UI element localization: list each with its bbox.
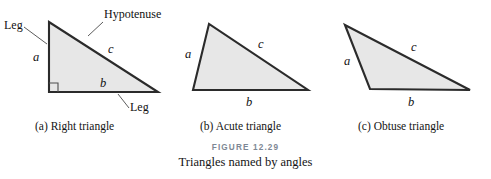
panel-caption-right-triangle: (a) Right triangle xyxy=(35,120,114,132)
triangles-diagram xyxy=(0,0,491,135)
leg-upper-left-callout-label: Leg xyxy=(4,19,23,31)
acute-triangle-shape xyxy=(193,24,308,90)
leg-lower-leader-line xyxy=(118,94,129,108)
side-label-c-obtuse: c xyxy=(411,41,417,54)
leg-lower-right-callout-label: Leg xyxy=(130,101,149,113)
figure-number: Figure 12.29 xyxy=(0,143,491,153)
side-label-b-right: b xyxy=(100,77,106,90)
panel-caption-acute-triangle: (b) Acute triangle xyxy=(200,120,281,132)
side-label-c-acute: c xyxy=(258,38,264,51)
figure-caption-block: Figure 12.29 Triangles named by angles xyxy=(0,143,491,171)
panel-caption-obtuse-triangle: (c) Obtuse triangle xyxy=(358,120,444,132)
side-label-a-right: a xyxy=(33,51,39,64)
obtuse-triangle-shape xyxy=(345,25,470,90)
hypotenuse-leader-line xyxy=(88,22,103,36)
side-label-c-right: c xyxy=(108,43,114,56)
figure-container: Hypotenuse Leg Leg a b c a b c a b c (a)… xyxy=(0,0,491,179)
side-label-a-acute: a xyxy=(185,48,191,61)
right-triangle-panel xyxy=(24,22,158,108)
figure-title: Triangles named by angles xyxy=(0,154,491,170)
side-label-b-obtuse: b xyxy=(408,96,414,109)
hypotenuse-callout-label: Hypotenuse xyxy=(104,8,161,20)
obtuse-triangle-panel xyxy=(345,25,470,90)
leg-upper-leader-line xyxy=(24,27,47,44)
side-label-b-acute: b xyxy=(246,96,252,109)
acute-triangle-panel xyxy=(193,24,308,90)
side-label-a-obtuse: a xyxy=(344,55,350,68)
